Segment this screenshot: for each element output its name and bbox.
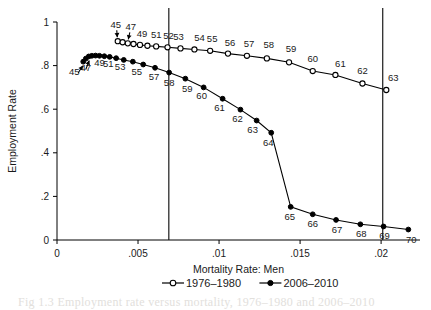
data-point-1976-1980-age-48: [131, 41, 136, 46]
data-point-1976-1980-age-46: [120, 40, 125, 45]
data-point-1976-1980-age-55: [208, 48, 213, 53]
point-label-2006-2010-age-60: 60: [196, 90, 207, 101]
x-tick-label: 0: [54, 248, 60, 259]
legend-label: 2006–2010: [283, 277, 338, 289]
point-label-1976-1980-age-54: 54: [194, 32, 205, 43]
data-point-1976-1980-age-51: [154, 44, 159, 49]
data-point-1976-1980-age-57: [244, 53, 249, 58]
data-point-1976-1980-age-62: [360, 81, 365, 86]
point-label-1976-1980-age-56: 56: [225, 37, 236, 48]
point-label-1976-1980-age-58: 58: [264, 39, 275, 50]
data-point-2006-2010-age-57: [153, 65, 158, 70]
legend-label: 1976–1980: [186, 277, 241, 289]
data-point-1976-1980-age-60: [310, 68, 315, 73]
y-tick-label: .2: [41, 191, 50, 202]
data-point-1976-1980-age-50: [145, 43, 150, 48]
point-label-1976-1980-age-45: 45: [110, 19, 121, 30]
data-point-1976-1980-age-63: [384, 87, 389, 92]
point-label-2006-2010-age-68: 68: [356, 228, 367, 239]
data-point-2006-2010-age-58: [167, 70, 172, 75]
x-tick-label: .01: [212, 248, 226, 259]
point-label-1976-1980-age-57: 57: [244, 38, 255, 49]
point-label-1976-1980-age-62: 62: [357, 65, 368, 76]
point-label-2006-2010-age-61: 61: [214, 102, 225, 113]
y-axis-title: Employment Rate: [6, 89, 18, 173]
point-label-2006-2010-age-64: 64: [263, 137, 274, 148]
point-label-2006-2010-age-51: 51: [103, 58, 114, 69]
annotation-arrow: [127, 32, 132, 39]
point-label-1976-1980-age-55: 55: [207, 33, 218, 44]
y-tick-label: 0: [43, 235, 49, 246]
point-label-2006-2010-age-70: 70: [406, 234, 417, 245]
data-point-1976-1980-age-54: [192, 47, 197, 52]
data-point-2006-2010-age-67: [334, 218, 339, 223]
data-point-2006-2010-age-55: [130, 59, 135, 64]
data-point-1976-1980-age-52: [165, 45, 170, 50]
point-label-2006-2010-age-55: 55: [132, 66, 143, 77]
point-label-1976-1980-age-61: 61: [335, 58, 346, 69]
series-line-2006-2010: [83, 56, 408, 230]
point-label-2006-2010-age-59: 59: [182, 83, 193, 94]
data-point-1976-1980-age-53: [178, 46, 183, 51]
x-tick-label: .015: [290, 248, 310, 259]
data-point-2006-2010-age-70: [406, 227, 411, 232]
data-point-2006-2010-age-62: [238, 107, 243, 112]
x-axis-title: Mortality Rate: Men: [193, 263, 284, 275]
data-point-2006-2010-age-64: [269, 130, 274, 135]
point-label-1976-1980-age-49: 49: [137, 28, 148, 39]
legend-entry-2006–2010[interactable]: 2006–2010: [259, 277, 338, 289]
point-label-2006-2010-age-66: 66: [307, 218, 318, 229]
figure-caption: Fig 1.3 Employment rate versus mortality…: [18, 295, 375, 310]
legend-filled-circle-icon: [268, 280, 273, 285]
legend-open-circle-icon: [170, 280, 176, 286]
point-label-2006-2010-age-57: 57: [149, 71, 160, 82]
y-tick-label: .6: [41, 104, 50, 115]
point-label-1976-1980-age-51: 51: [151, 29, 162, 40]
y-tick-label: .4: [41, 147, 50, 158]
y-tick-label: 1: [43, 17, 49, 28]
point-label-2006-2010-age-69: 69: [379, 230, 390, 241]
data-point-2006-2010-age-66: [310, 212, 315, 217]
point-label-2006-2010-age-45: 45: [69, 66, 80, 77]
data-point-1976-1980-age-49: [137, 42, 142, 47]
data-point-2006-2010-age-60: [201, 85, 206, 90]
data-point-1976-1980-age-56: [225, 51, 230, 56]
data-point-2006-2010-age-63: [254, 118, 259, 123]
point-label-1976-1980-age-59: 59: [286, 43, 297, 54]
point-label-1976-1980-age-47: 47: [126, 21, 137, 32]
point-label-2006-2010-age-53: 53: [115, 61, 126, 72]
data-point-2006-2010-age-69: [381, 224, 386, 229]
point-label-2006-2010-age-63: 63: [247, 124, 258, 135]
annotation-arrow: [115, 30, 120, 37]
point-label-2006-2010-age-62: 62: [232, 113, 243, 124]
legend-entry-1976–1980[interactable]: 1976–1980: [162, 277, 241, 289]
point-label-1976-1980-age-63: 63: [388, 72, 399, 83]
legend: 1976–19802006–2010: [162, 277, 338, 289]
point-labels-layer: 4547495152535455565758596061626345474951…: [69, 19, 417, 244]
x-tick-label: .02: [374, 248, 388, 259]
point-label-1976-1980-age-60: 60: [307, 53, 318, 64]
x-tick-label: .005: [128, 248, 148, 259]
data-point-2006-2010-age-65: [288, 204, 293, 209]
data-point-2006-2010-age-53: [114, 56, 119, 61]
y-tick-label: .8: [41, 60, 50, 71]
data-point-2006-2010-age-68: [358, 222, 363, 227]
point-label-2006-2010-age-67: 67: [332, 224, 343, 235]
point-label-2006-2010-age-58: 58: [164, 77, 175, 88]
data-point-1976-1980-age-47: [125, 41, 130, 46]
point-label-1976-1980-age-53: 53: [173, 31, 184, 42]
data-point-1976-1980-age-58: [264, 56, 269, 61]
point-label-2006-2010-age-65: 65: [284, 211, 295, 222]
data-point-2006-2010-age-59: [183, 76, 188, 81]
data-point-1976-1980-age-61: [333, 72, 338, 77]
data-point-2006-2010-age-61: [220, 96, 225, 101]
data-point-1976-1980-age-59: [286, 60, 291, 65]
